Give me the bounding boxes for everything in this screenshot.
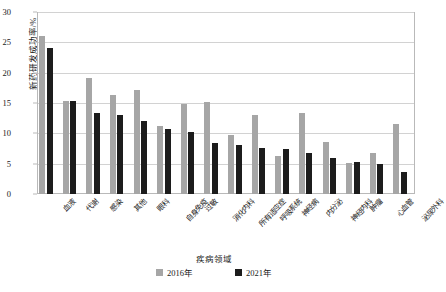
bar-2021	[165, 129, 171, 194]
bar-group	[132, 12, 156, 194]
bar-2021	[117, 115, 123, 194]
bar-2021	[236, 145, 242, 194]
x-axis-tick: 血液	[60, 196, 78, 214]
x-axis-tick: 泌尿外科	[418, 196, 446, 224]
bar-2016	[275, 156, 281, 194]
x-axis-tick: 消化内科	[229, 196, 257, 224]
bar-group	[250, 12, 274, 194]
x-axis-tick-label: 内分泌	[322, 196, 345, 219]
bar-2021	[283, 149, 289, 194]
bar-2016	[134, 90, 140, 194]
legend-item: 2016年	[156, 266, 193, 278]
x-axis-tick: 心血管	[393, 196, 416, 219]
x-axis-tick-label: 感染	[107, 196, 125, 214]
bar-2016	[110, 95, 116, 194]
bar-group	[37, 12, 61, 194]
bar-2016	[63, 101, 69, 194]
x-axis-tick-label: 血液	[60, 196, 78, 214]
bar-2021	[330, 158, 336, 194]
x-axis-tick-label: 消化内科	[229, 196, 257, 224]
x-axis-title: 疾病领域	[0, 252, 428, 264]
legend-label: 2021年	[246, 266, 272, 278]
bar-2021	[141, 121, 147, 194]
y-axis-tick-label: 30	[0, 7, 11, 17]
legend-swatch-icon	[235, 269, 242, 276]
y-axis-tick-label: 10	[0, 128, 11, 138]
x-axis-tick: 眼科	[154, 196, 172, 214]
bar-group	[61, 12, 85, 194]
bar-group	[226, 12, 250, 194]
bar-2016	[86, 78, 92, 194]
bar-group	[344, 12, 368, 194]
x-axis-tick-label: 代谢	[84, 196, 102, 214]
bar-2016	[181, 104, 187, 194]
bar-2021	[188, 132, 194, 194]
y-axis-tick-label: 20	[0, 68, 11, 78]
y-axis-tick-label: 5	[0, 159, 11, 169]
x-axis-ticks: 血液代谢感染其他眼科自身免疫过敏消化内科所有适应症呼吸系统神经病内分泌神经内科肿…	[37, 196, 415, 256]
bar-2021	[306, 153, 312, 194]
bar-group	[202, 12, 226, 194]
bar-group	[297, 12, 321, 194]
y-axis-tick-label: 25	[0, 37, 11, 47]
x-axis-tick: 内分泌	[322, 196, 345, 219]
bar-2016	[299, 113, 305, 194]
chart-legend: 2016年2021年	[0, 266, 428, 278]
bar-2021	[47, 48, 53, 194]
bar-2016	[323, 142, 329, 194]
bars-layer	[37, 12, 415, 194]
bar-2021	[94, 113, 100, 194]
bar-2016	[39, 36, 45, 194]
bar-group	[321, 12, 345, 194]
legend-swatch-icon	[156, 269, 163, 276]
x-axis-tick: 其他	[131, 196, 149, 214]
legend-item: 2021年	[235, 266, 272, 278]
bar-group	[155, 12, 179, 194]
bar-2021	[70, 101, 76, 194]
x-axis-tick-label: 其他	[131, 196, 149, 214]
bar-2021	[354, 162, 360, 194]
x-axis-tick-label: 泌尿外科	[418, 196, 446, 224]
bar-2021	[377, 164, 383, 194]
x-axis-tick: 神经病	[298, 196, 321, 219]
bar-2016	[252, 115, 258, 194]
bar-2016	[370, 153, 376, 194]
x-axis-tick-label: 眼科	[154, 196, 172, 214]
bar-2016	[204, 102, 210, 194]
bar-group	[179, 12, 203, 194]
bar-2021	[259, 148, 265, 194]
bar-group	[273, 12, 297, 194]
bar-2016	[346, 163, 352, 194]
bar-2016	[157, 126, 163, 194]
bar-group	[368, 12, 392, 194]
bar-2021	[212, 143, 218, 194]
y-axis-tick-label: 0	[0, 189, 11, 199]
bar-2021	[401, 172, 407, 194]
bar-2016	[393, 124, 399, 194]
bar-group	[84, 12, 108, 194]
bar-group	[391, 12, 415, 194]
legend-label: 2016年	[167, 266, 193, 278]
x-axis-tick: 感染	[107, 196, 125, 214]
y-axis-tick-label: 15	[0, 98, 11, 108]
bar-2016	[228, 135, 234, 194]
bar-group	[108, 12, 132, 194]
x-axis-tick-label: 神经病	[298, 196, 321, 219]
x-axis-tick-label: 心血管	[393, 196, 416, 219]
x-axis-tick: 代谢	[84, 196, 102, 214]
